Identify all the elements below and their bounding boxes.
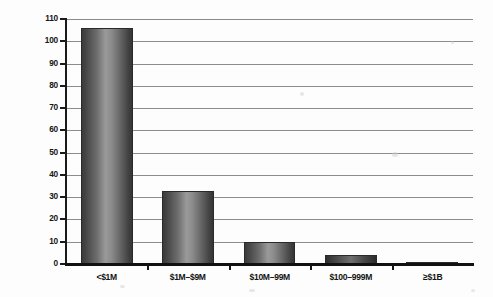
x-axis-category-label: <$1M — [68, 272, 145, 283]
x-axis-category-labels: <$1M$1M–$9M$10M–99M$100–999M≥$1B — [66, 272, 473, 292]
x-axis-category-label: ≥$1B — [394, 272, 471, 283]
y-axis-tick — [60, 218, 66, 220]
bar — [162, 191, 214, 265]
y-axis-tick — [60, 241, 66, 243]
scan-speckle — [471, 289, 475, 292]
bar-chart: 0102030405060708090100110 <$1M$1M–$9M$10… — [0, 0, 493, 297]
y-axis-tick — [60, 107, 66, 109]
y-axis-tick — [60, 85, 66, 87]
y-axis-tick — [60, 129, 66, 131]
x-axis-category-label: $10M–99M — [231, 272, 308, 283]
gridline — [66, 19, 473, 20]
y-axis-line — [65, 18, 67, 265]
y-axis-tick — [60, 40, 66, 42]
y-axis-tick-label: 50 — [27, 148, 58, 157]
scan-speckle — [120, 285, 125, 288]
y-axis-tick-label: 90 — [27, 59, 58, 68]
x-axis-line — [65, 263, 474, 266]
y-axis-tick-label: 80 — [27, 81, 58, 90]
y-axis-labels: 0102030405060708090100110 — [14, 0, 58, 297]
y-axis-tick — [60, 63, 66, 65]
y-axis-tick-label: 0 — [27, 259, 58, 268]
x-axis-tick — [392, 264, 394, 270]
y-axis-tick-label: 40 — [27, 170, 58, 179]
x-axis-tick — [147, 264, 149, 270]
y-axis-tick-label: 100 — [27, 36, 58, 45]
bar — [81, 28, 133, 264]
y-axis-tick-label: 10 — [27, 237, 58, 246]
y-axis-tick — [60, 18, 66, 20]
x-axis-category-label: $100–999M — [312, 272, 389, 283]
scan-speckle — [392, 152, 398, 157]
scan-speckle — [451, 41, 454, 44]
scan-speckle — [249, 289, 255, 292]
bar — [244, 242, 296, 264]
y-axis-tick — [60, 196, 66, 198]
y-axis-tick-label: 30 — [27, 192, 58, 201]
y-axis-tick-label: 20 — [27, 214, 58, 223]
x-axis-category-label: $1M–$9M — [149, 272, 226, 283]
y-axis-tick — [60, 152, 66, 154]
y-axis-tick-label: 60 — [27, 125, 58, 134]
y-axis-tick-label: 110 — [27, 14, 58, 23]
y-axis-tick — [60, 174, 66, 176]
scan-speckle — [300, 92, 304, 96]
x-axis-tick — [310, 264, 312, 270]
y-axis-tick-label: 70 — [27, 103, 58, 112]
x-axis-tick — [229, 264, 231, 270]
